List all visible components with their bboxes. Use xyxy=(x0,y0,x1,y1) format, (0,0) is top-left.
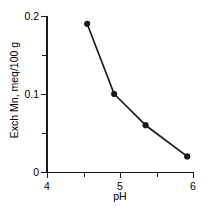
data-series-svg xyxy=(47,16,193,172)
data-point-marker xyxy=(142,122,148,128)
x-axis-title: pH xyxy=(47,190,193,202)
y-axis-tick-label: 0.2 xyxy=(24,11,39,22)
x-axis-tick xyxy=(193,172,194,178)
y-axis-tick xyxy=(41,94,47,95)
series-line xyxy=(87,24,187,157)
y-axis-tick xyxy=(42,133,47,134)
data-point-marker xyxy=(184,153,190,159)
x-axis-tick xyxy=(157,172,158,177)
series-markers xyxy=(84,21,190,160)
y-axis-title-text: Exch Mn, meq/100 g xyxy=(8,42,20,138)
chart-figure: Exch Mn, meq/100 g 00.10.2456 pH xyxy=(0,0,219,213)
x-axis-tick xyxy=(47,172,48,178)
data-point-marker xyxy=(84,21,90,27)
y-axis-title: Exch Mn, meq/100 g xyxy=(6,0,22,180)
y-axis-tick-label: 0 xyxy=(33,167,39,178)
plot-area: 00.10.2456 xyxy=(47,16,193,172)
y-axis-tick-label: 0.1 xyxy=(24,89,39,100)
data-point-marker xyxy=(111,91,117,97)
y-axis-tick xyxy=(41,16,47,17)
x-axis-tick xyxy=(120,172,121,178)
x-axis-tick xyxy=(84,172,85,177)
y-axis-tick xyxy=(42,55,47,56)
